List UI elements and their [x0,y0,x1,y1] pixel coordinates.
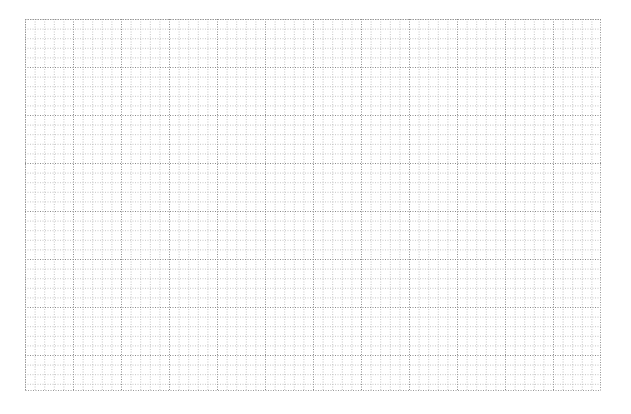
graph-paper-grid [25,19,601,391]
grid-lines [25,19,601,391]
